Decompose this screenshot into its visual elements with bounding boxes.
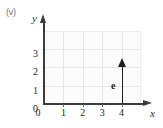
plot-grid <box>44 31 141 104</box>
x-axis-arrowhead-icon <box>143 100 152 106</box>
y-tick-label: 0 <box>26 104 38 114</box>
y-tick-label: 1 <box>26 86 38 96</box>
x-tick-label: 4 <box>116 108 128 118</box>
y-axis-arrowhead-icon <box>40 14 46 23</box>
x-axis-line <box>43 103 144 105</box>
y-axis-label: y <box>32 13 37 24</box>
x-tick-label: 3 <box>96 108 108 118</box>
vector-arrow-head-icon <box>118 58 126 67</box>
vector-label: e <box>111 81 115 91</box>
x-axis-label: x <box>150 108 155 119</box>
grid-line-horizontal <box>44 49 141 50</box>
grid-line-horizontal <box>44 67 141 68</box>
grid-line-horizontal <box>44 86 141 87</box>
figure-part-label: (v) <box>6 7 16 17</box>
x-tick-label: 1 <box>57 108 69 118</box>
x-tick-label: 2 <box>77 108 89 118</box>
y-tick-label: 2 <box>26 67 38 77</box>
y-tick-label: 3 <box>26 49 38 59</box>
vector-arrow-shaft <box>122 66 124 105</box>
vector-diagram-figure: (v) y x 0 1 2 3 4 3 2 1 0 e <box>0 0 163 128</box>
y-axis-line <box>43 22 45 105</box>
